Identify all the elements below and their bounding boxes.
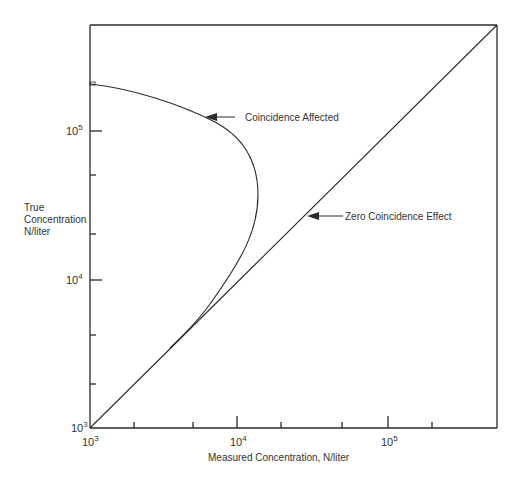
y-ticks bbox=[90, 131, 102, 384]
arrow-left-icon bbox=[307, 212, 319, 220]
y-tick-label-1e4: 104 bbox=[66, 272, 83, 286]
y-tick-label-1e5: 105 bbox=[66, 123, 83, 137]
annotation-zero-coincidence-text: Zero Coincidence Effect bbox=[345, 211, 452, 222]
y-axis-label-line-3: N/liter bbox=[24, 226, 50, 238]
x-axis-label: Measured Concentration, N/liter bbox=[208, 452, 350, 463]
y-axis-label-line-2: Concentration bbox=[24, 214, 86, 226]
x-tick-label-1e3: 103 bbox=[82, 434, 99, 448]
coincidence-affected-curve bbox=[90, 84, 258, 348]
x-tick-label-1e5: 105 bbox=[381, 434, 398, 448]
x-tick-label-1e4: 104 bbox=[230, 434, 247, 448]
annotation-coincidence-affected-text: Coincidence Affected bbox=[245, 112, 339, 123]
y-tick-label-1e3: 103 bbox=[71, 420, 88, 434]
zero-coincidence-line bbox=[90, 25, 497, 428]
x-ticks bbox=[134, 416, 432, 428]
annotation-coincidence-affected: Coincidence Affected bbox=[205, 112, 339, 123]
annotation-zero-coincidence: Zero Coincidence Effect bbox=[307, 211, 452, 222]
y-axis-label-line-1: True bbox=[24, 202, 44, 214]
chart-plot: 105 104 103 103 104 105 Measured Concent… bbox=[0, 0, 521, 479]
